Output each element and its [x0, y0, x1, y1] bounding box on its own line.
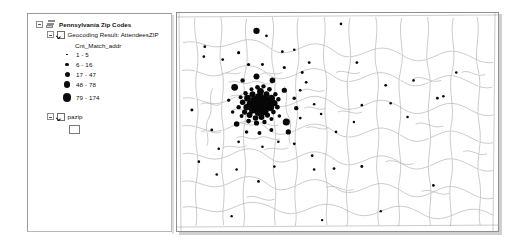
symbology-field-label-row: Cnt_Match_addr [75, 42, 121, 49]
toc-item-pennsylvania-zip-codes[interactable]: Pennsylvania Zip Codes [36, 20, 131, 28]
legend-class-item[interactable]: 6 - 16 [59, 61, 92, 68]
table-of-contents-panel[interactable]: Pennsylvania Zip Codes Geocoding Result:… [27, 13, 172, 232]
legend-class-label: 17 - 47 [76, 71, 96, 78]
zip-polygon-layer [177, 13, 498, 231]
expander-collapse-icon[interactable] [47, 31, 54, 38]
graduated-symbol-icon [59, 63, 75, 66]
legend-class-label: 79 - 174 [76, 94, 100, 101]
legend-class-item[interactable]: 79 - 174 [59, 93, 100, 102]
gis-map-document: Pennsylvania Zip Codes Geocoding Result:… [0, 0, 516, 246]
toc-label-group-layer: Pennsylvania Zip Codes [59, 21, 131, 28]
symbology-field-label: Cnt_Match_addr [75, 42, 121, 49]
layer-stack-icon [46, 20, 55, 28]
map-canvas[interactable] [177, 13, 498, 231]
layer-visibility-checkbox[interactable] [57, 113, 65, 121]
legend-class-item[interactable]: 1 - 5 [59, 51, 89, 58]
panel-edge-shadow [172, 15, 174, 234]
graduated-symbol-icon [59, 93, 75, 102]
map-frame-bottom-shadow [179, 232, 502, 235]
expander-collapse-icon[interactable] [47, 113, 54, 120]
toc-label-geocoding-result: Geocoding Result: AttendeesZIP [68, 31, 159, 38]
graduated-symbol-icon [59, 81, 75, 87]
graduated-symbol-icon [59, 72, 75, 77]
map-frame[interactable] [176, 12, 499, 232]
toc-label-pazip: pazip [68, 113, 83, 120]
layer-visibility-checkbox[interactable] [57, 31, 65, 39]
legend-class-label: 6 - 16 [76, 61, 92, 68]
legend-class-item[interactable]: 17 - 47 [59, 71, 96, 78]
toc-item-geocoding-result[interactable]: Geocoding Result: AttendeesZIP [47, 31, 159, 39]
map-frame-edge-shadow [499, 14, 502, 234]
legend-class-label: 1 - 5 [76, 51, 89, 58]
polygon-symbol-swatch[interactable] [69, 125, 80, 134]
toc-item-pazip[interactable]: pazip [47, 113, 83, 121]
graduated-symbol-icon [59, 54, 75, 56]
legend-class-label: 48 - 78 [76, 81, 96, 88]
expander-collapse-icon[interactable] [36, 21, 43, 28]
legend-class-item[interactable]: 48 - 78 [59, 81, 96, 88]
